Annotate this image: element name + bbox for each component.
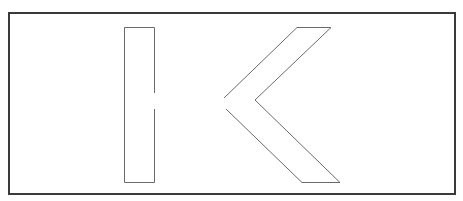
k-upper-arm-outline	[224, 28, 331, 101]
k-stem-outline	[125, 28, 155, 183]
k-lower-arm-outline	[226, 100, 340, 183]
letter-k-drawing	[0, 0, 463, 201]
